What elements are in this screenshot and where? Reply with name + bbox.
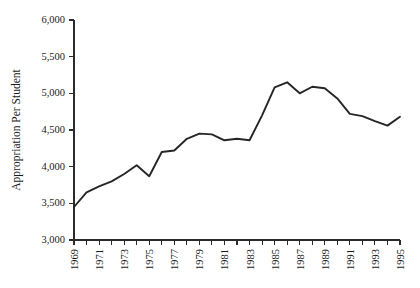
x-axis-tick-labels: 1969197119731975197719791981198319851987… [69, 249, 406, 270]
x-tick-label: 1983 [245, 249, 256, 270]
x-tick-label: 1989 [320, 249, 331, 270]
x-tick-label: 1995 [395, 249, 406, 270]
y-tick-label: 6,000 [41, 14, 65, 25]
x-tick-label: 1985 [270, 249, 281, 270]
x-tick-label: 1993 [370, 249, 381, 270]
x-tick-label: 1981 [219, 249, 230, 270]
x-tick-label: 1975 [144, 249, 155, 270]
chart-figure: Appropriation Per Student 3,0003,5004,00… [0, 0, 420, 288]
data-series-line [74, 82, 400, 207]
x-tick-label: 1973 [119, 249, 130, 270]
y-tick-label: 5,000 [41, 87, 65, 98]
x-tick-label: 1991 [345, 249, 356, 270]
y-axis-title-group: Appropriation Per Student [10, 69, 23, 191]
y-axis-tick-labels: 3,0003,5004,0004,5005,0005,5006,000 [41, 14, 65, 245]
y-tick-label: 3,500 [41, 197, 65, 208]
y-tick-label: 5,500 [41, 51, 65, 62]
y-tick-label: 4,000 [41, 161, 65, 172]
line-chart: Appropriation Per Student 3,0003,5004,00… [0, 0, 420, 288]
x-axis-tick-marks [74, 240, 400, 245]
x-tick-label: 1969 [69, 249, 80, 270]
y-axis-title: Appropriation Per Student [10, 69, 23, 191]
y-tick-label: 4,500 [41, 124, 65, 135]
x-tick-label: 1979 [194, 249, 205, 270]
y-tick-label: 3,000 [41, 234, 65, 245]
x-tick-label: 1987 [295, 249, 306, 270]
x-tick-label: 1971 [94, 249, 105, 270]
x-tick-label: 1977 [169, 249, 180, 270]
